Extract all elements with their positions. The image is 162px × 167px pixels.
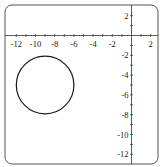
- plot-frame: [5, 5, 158, 164]
- y-tick-label: -6: [121, 90, 128, 100]
- plot: -12-10-8-6-4-22 2-2-4-6-8-10-12: [0, 0, 162, 167]
- y-tick-label: -10: [117, 130, 128, 140]
- x-tick-label: -2: [109, 39, 116, 49]
- x-tick-label: -10: [30, 39, 41, 49]
- y-tick-label: -8: [121, 110, 128, 120]
- y-tick-label: 2: [124, 11, 128, 21]
- graph-panel: -12-10-8-6-4-22 2-2-4-6-8-10-12: [0, 0, 162, 167]
- y-tick-label: -4: [121, 70, 129, 80]
- y-tick-label: -12: [117, 149, 128, 159]
- x-tick-label: -8: [51, 39, 58, 49]
- x-tick-label: -12: [11, 39, 22, 49]
- x-tick-label: -4: [90, 39, 98, 49]
- y-tick-label: -2: [121, 50, 128, 60]
- x-tick-label: -6: [70, 39, 77, 49]
- x-tick-label: 2: [149, 39, 153, 49]
